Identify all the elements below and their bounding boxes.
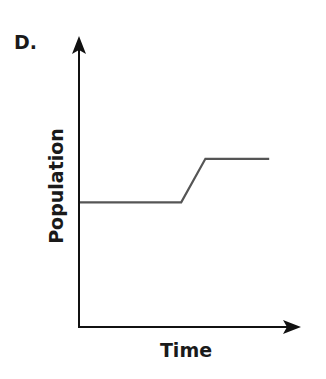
population-line: [80, 159, 269, 203]
x-axis-label: Time: [160, 339, 212, 361]
x-axis: [78, 320, 301, 334]
y-axis-label: Population: [45, 128, 67, 244]
y-axis: [72, 36, 86, 327]
